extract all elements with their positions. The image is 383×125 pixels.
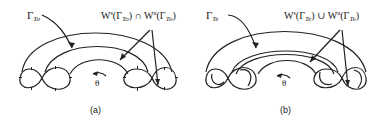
manifold-label-a: Ws(ΓTo) ∩ Wu(ΓTo) xyxy=(101,10,176,23)
orbit-label-b: ΓTe xyxy=(206,10,219,23)
panel-b: ΓTe Ws(ΓTe) ∪ Wu(ΓTe) θ (b) xyxy=(192,0,383,125)
orbit-label-a: ΓTo xyxy=(27,10,40,23)
theta-label-a: θ xyxy=(95,78,99,88)
caption-b: (b) xyxy=(280,105,291,115)
panel-a: ΓTo Ws(ΓTo) ∩ Wu(ΓTo) θ (a) xyxy=(0,0,190,125)
theta-label-b: θ xyxy=(282,78,286,88)
manifold-label-b: Ws(ΓTe) ∪ Wu(ΓTe) xyxy=(284,10,359,23)
caption-a: (a) xyxy=(90,105,101,115)
